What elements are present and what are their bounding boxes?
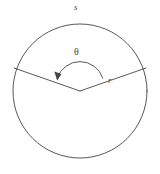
arc-length-label: s xyxy=(74,3,78,12)
angle-theta-label: θ xyxy=(74,47,79,57)
geometry-figure: s θ r xyxy=(0,0,160,174)
angle-arc xyxy=(57,62,103,79)
figure-canvas xyxy=(0,0,160,174)
radius-line-left xyxy=(14,68,80,91)
radius-line-right xyxy=(80,68,146,91)
angle-arrowhead-icon xyxy=(54,72,61,81)
radius-label: r xyxy=(108,76,112,85)
